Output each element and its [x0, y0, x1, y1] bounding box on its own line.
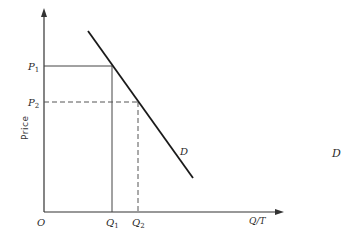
- y-axis-label: Price: [20, 116, 30, 140]
- x-axis-label: Q/T: [249, 216, 266, 226]
- y-axis-arrow-icon: [41, 8, 47, 17]
- p2-label: P2: [27, 97, 39, 110]
- x-axis-arrow-icon: [275, 209, 284, 215]
- q2-label: Q2: [132, 217, 145, 230]
- origin-label: O: [37, 217, 45, 228]
- demand-curve: [88, 31, 193, 178]
- stray-mark: D: [331, 147, 341, 160]
- p1-label: P1: [27, 61, 39, 74]
- demand-chart: P1 P2 Price O Q1 Q2 Q/T D D: [0, 0, 348, 236]
- demand-curve-label: D: [179, 146, 188, 157]
- q1-label: Q1: [106, 217, 119, 230]
